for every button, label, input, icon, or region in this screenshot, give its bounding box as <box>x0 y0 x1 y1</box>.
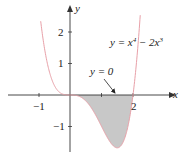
zero-arrow <box>104 79 115 93</box>
y-tick-label: 2 <box>58 26 64 38</box>
x-axis-label: x <box>172 88 178 100</box>
y-tick-label: −1 <box>53 120 65 132</box>
x-tick-label: 2 <box>131 100 137 112</box>
y-axis-arrow-icon <box>67 5 73 12</box>
y-tick-label: 1 <box>58 57 64 69</box>
y-axis-label: y <box>74 2 80 14</box>
zero-label: y = 0 <box>89 65 114 77</box>
chart: y x −1 2 2 1 −1 y = x4 − 2x3 y = 0 <box>0 0 181 158</box>
curve-label: y = x4 − 2x3 <box>109 36 164 48</box>
x-tick-label: −1 <box>33 100 45 112</box>
